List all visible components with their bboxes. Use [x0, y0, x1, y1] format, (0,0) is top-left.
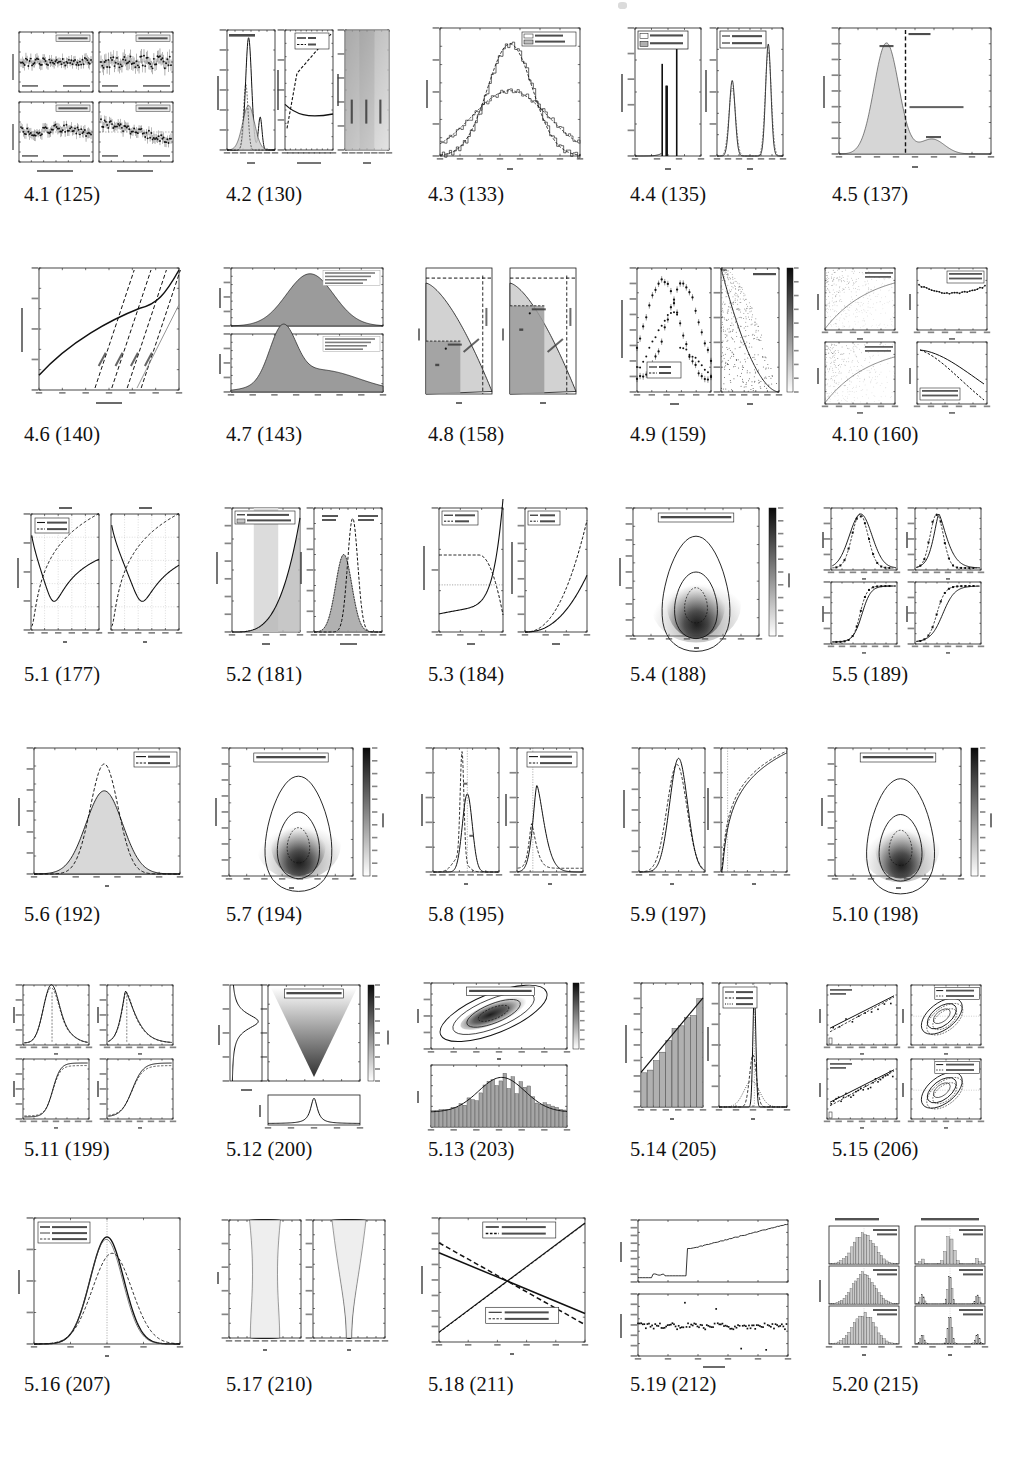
- figure-caption[interactable]: 5.7 (194): [202, 904, 302, 925]
- figure-thumbnail[interactable]: [202, 1208, 398, 1368]
- figure-caption[interactable]: 5.18 (211): [404, 1374, 514, 1395]
- figure-caption[interactable]: 5.10 (198): [808, 904, 918, 925]
- figure-caption[interactable]: 5.17 (210): [202, 1374, 312, 1395]
- figure-entry[interactable]: 5.17 (210): [202, 1208, 404, 1395]
- figure-caption[interactable]: 4.1 (125): [0, 184, 100, 205]
- figure-thumbnail[interactable]: [202, 258, 398, 418]
- figure-caption[interactable]: 5.14 (205): [606, 1139, 716, 1160]
- figure-entry[interactable]: 4.6 (140): [0, 258, 202, 445]
- figure-entry[interactable]: 4.5 (137): [808, 18, 1010, 205]
- figure-thumbnail[interactable]: [0, 258, 196, 418]
- figure-row: 4.6 (140)4.7 (143)4.8 (158)4.9 (159)4.10…: [0, 258, 1013, 445]
- figure-thumbnail[interactable]: [202, 498, 398, 658]
- figure-thumbnail[interactable]: [404, 973, 600, 1133]
- figure-entry[interactable]: 4.1 (125): [0, 18, 202, 205]
- figure-entry[interactable]: 4.10 (160): [808, 258, 1010, 445]
- figure-entry[interactable]: 5.10 (198): [808, 738, 1010, 925]
- figure-entry[interactable]: 4.8 (158): [404, 258, 606, 445]
- figure-caption[interactable]: 5.8 (195): [404, 904, 504, 925]
- figure-thumbnail[interactable]: [606, 498, 802, 658]
- figure-caption[interactable]: 4.6 (140): [0, 424, 100, 445]
- figure-entry[interactable]: 5.8 (195): [404, 738, 606, 925]
- figure-thumbnail[interactable]: [808, 738, 1004, 898]
- figure-entry[interactable]: 4.9 (159): [606, 258, 808, 445]
- figure-caption[interactable]: 5.9 (197): [606, 904, 706, 925]
- figure-caption[interactable]: 5.5 (189): [808, 664, 908, 685]
- figure-thumbnail[interactable]: [0, 498, 196, 658]
- figure-thumbnail[interactable]: [0, 18, 196, 178]
- figure-thumbnail[interactable]: [404, 1208, 600, 1368]
- figure-thumbnail[interactable]: [808, 498, 1004, 658]
- figure-entry[interactable]: 5.14 (205): [606, 973, 808, 1160]
- figure-caption[interactable]: 5.4 (188): [606, 664, 706, 685]
- figure-entry[interactable]: 4.4 (135): [606, 18, 808, 205]
- figure-row: 5.6 (192)5.7 (194)5.8 (195)5.9 (197)5.10…: [0, 738, 1013, 925]
- figure-thumbnail[interactable]: [0, 973, 196, 1133]
- figure-thumbnail[interactable]: [606, 1208, 802, 1368]
- figure-entry[interactable]: 5.15 (206): [808, 973, 1010, 1160]
- figure-entry[interactable]: 5.1 (177): [0, 498, 202, 685]
- figure-caption[interactable]: 4.4 (135): [606, 184, 706, 205]
- figure-thumbnail[interactable]: [404, 738, 600, 898]
- figure-thumbnail[interactable]: [606, 738, 802, 898]
- figure-entry[interactable]: 5.3 (184): [404, 498, 606, 685]
- figure-thumbnail[interactable]: [202, 973, 398, 1133]
- figure-thumbnail[interactable]: [808, 258, 1004, 418]
- figure-entry[interactable]: 5.9 (197): [606, 738, 808, 925]
- figure-entry[interactable]: 4.2 (130): [202, 18, 404, 205]
- figure-entry[interactable]: 5.4 (188): [606, 498, 808, 685]
- figure-entry[interactable]: 5.7 (194): [202, 738, 404, 925]
- figure-entry[interactable]: 4.3 (133): [404, 18, 606, 205]
- figure-entry[interactable]: 4.7 (143): [202, 258, 404, 445]
- figure-caption[interactable]: 4.2 (130): [202, 184, 302, 205]
- figure-caption[interactable]: 4.5 (137): [808, 184, 908, 205]
- figure-entry[interactable]: 5.16 (207): [0, 1208, 202, 1395]
- figure-thumbnail[interactable]: [404, 258, 600, 418]
- figure-thumbnail[interactable]: [404, 498, 600, 658]
- figure-caption[interactable]: 4.9 (159): [606, 424, 706, 445]
- figure-caption[interactable]: 5.6 (192): [0, 904, 100, 925]
- figure-caption[interactable]: 5.11 (199): [0, 1139, 110, 1160]
- figure-entry[interactable]: 5.6 (192): [0, 738, 202, 925]
- figure-caption[interactable]: 4.7 (143): [202, 424, 302, 445]
- figure-caption[interactable]: 5.16 (207): [0, 1374, 110, 1395]
- figure-entry[interactable]: 5.20 (215): [808, 1208, 1010, 1395]
- figure-entry[interactable]: 5.18 (211): [404, 1208, 606, 1395]
- figure-caption[interactable]: 5.1 (177): [0, 664, 100, 685]
- figure-caption[interactable]: 5.15 (206): [808, 1139, 918, 1160]
- figure-row: 5.1 (177)5.2 (181)5.3 (184)5.4 (188)5.5 …: [0, 498, 1013, 685]
- figure-thumbnail[interactable]: [808, 973, 1004, 1133]
- figure-thumbnail[interactable]: [606, 973, 802, 1133]
- figure-caption[interactable]: 4.8 (158): [404, 424, 504, 445]
- figure-caption[interactable]: 5.19 (212): [606, 1374, 716, 1395]
- figure-caption[interactable]: 5.13 (203): [404, 1139, 514, 1160]
- figure-entry[interactable]: 5.19 (212): [606, 1208, 808, 1395]
- page-top-mark: [618, 2, 627, 9]
- figure-thumbnail[interactable]: [606, 258, 802, 418]
- figure-entry[interactable]: 5.12 (200): [202, 973, 404, 1160]
- figure-caption[interactable]: 5.2 (181): [202, 664, 302, 685]
- figure-thumbnail[interactable]: [202, 18, 398, 178]
- figure-row: 5.11 (199)5.12 (200)5.13 (203)5.14 (205)…: [0, 973, 1013, 1160]
- figure-row: 4.1 (125)4.2 (130)4.3 (133)4.4 (135)4.5 …: [0, 18, 1013, 205]
- figure-thumbnail[interactable]: [606, 18, 802, 178]
- figure-entry[interactable]: 5.11 (199): [0, 973, 202, 1160]
- figure-thumbnail[interactable]: [808, 1208, 1004, 1368]
- figure-caption[interactable]: 5.3 (184): [404, 664, 504, 685]
- figure-thumbnail[interactable]: [808, 18, 1004, 178]
- figure-entry[interactable]: 5.5 (189): [808, 498, 1010, 685]
- figure-thumbnail[interactable]: [202, 738, 398, 898]
- figure-caption[interactable]: 5.20 (215): [808, 1374, 918, 1395]
- figure-caption[interactable]: 4.3 (133): [404, 184, 504, 205]
- figure-thumbnail[interactable]: [0, 738, 196, 898]
- list-of-figures-page: 4.1 (125)4.2 (130)4.3 (133)4.4 (135)4.5 …: [0, 0, 1013, 1461]
- figure-entry[interactable]: 5.2 (181): [202, 498, 404, 685]
- figure-row: 5.16 (207)5.17 (210)5.18 (211)5.19 (212)…: [0, 1208, 1013, 1395]
- figure-caption[interactable]: 4.10 (160): [808, 424, 918, 445]
- figure-thumbnail[interactable]: [0, 1208, 196, 1368]
- figure-entry[interactable]: 5.13 (203): [404, 973, 606, 1160]
- figure-thumbnail[interactable]: [404, 18, 600, 178]
- figure-caption[interactable]: 5.12 (200): [202, 1139, 312, 1160]
